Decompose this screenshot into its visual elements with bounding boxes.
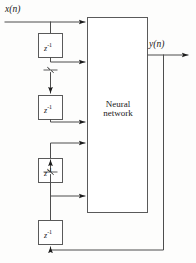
delay-block-2-shape [39, 96, 63, 120]
break-symbol-1 [44, 67, 57, 72]
delay-1-output-path [51, 58, 86, 63]
delay-block-4-shape [39, 221, 63, 245]
delay-block-1-shape [39, 34, 63, 58]
delay-4-output-path [51, 196, 86, 220]
neural-network-box-shape [88, 18, 148, 213]
neural-network-delay-diagram: x(n) y(n) Neural network z-1 z-1 z-1 z-1 [0, 0, 196, 263]
diagram-canvas [0, 0, 196, 263]
delay-3-output-path [51, 143, 86, 158]
